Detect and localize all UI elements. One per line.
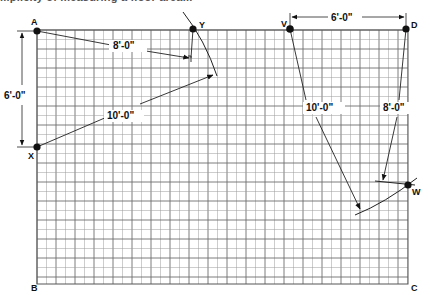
dimension-label-A-X: 6'-0"	[4, 90, 26, 101]
point-label-B: B	[31, 283, 38, 293]
point-A-dot	[33, 27, 40, 34]
line-A-Y-part1	[37, 31, 111, 45]
line-D-W-part2	[383, 117, 397, 180]
point-label-V: V	[281, 19, 287, 29]
layout-diagram: ...plicity of measuring a floor area...	[0, 0, 430, 295]
point-label-C: C	[411, 283, 418, 293]
point-V-dot	[286, 25, 294, 33]
arc-tick-A	[188, 56, 191, 62]
point-label-Y: Y	[199, 20, 205, 30]
dimension-label-A-Y: 8'-0"	[113, 40, 135, 51]
dimension-label-X-Y: 10'-0"	[107, 110, 134, 121]
dimension-A-X	[17, 31, 37, 147]
point-label-W: W	[412, 187, 421, 197]
point-label-D: D	[411, 20, 418, 30]
dimension-label-V-D: 6'-0"	[331, 12, 353, 23]
line-A-Y-part2	[146, 51, 189, 58]
point-X-dot	[33, 143, 40, 150]
dimension-label-V-W: 10'-0"	[306, 102, 333, 113]
point-D-dot	[402, 25, 409, 32]
line-Y-drop	[191, 29, 193, 58]
floor-grid-diagram: 8'-0" 10'-0" 10'-0" 8'-0" 6'-0" 6'-0" A …	[0, 0, 430, 295]
point-W-dot	[404, 181, 411, 188]
line-X-Y-part1	[37, 117, 107, 147]
caption-fragment: ...plicity of measuring a floor area...	[0, 0, 192, 3]
point-Y-dot	[189, 25, 196, 32]
dimension-label-D-W: 8'-0"	[383, 102, 405, 113]
graph-paper-grid	[37, 30, 408, 284]
point-label-X: X	[28, 151, 34, 161]
point-label-A: A	[31, 17, 38, 27]
